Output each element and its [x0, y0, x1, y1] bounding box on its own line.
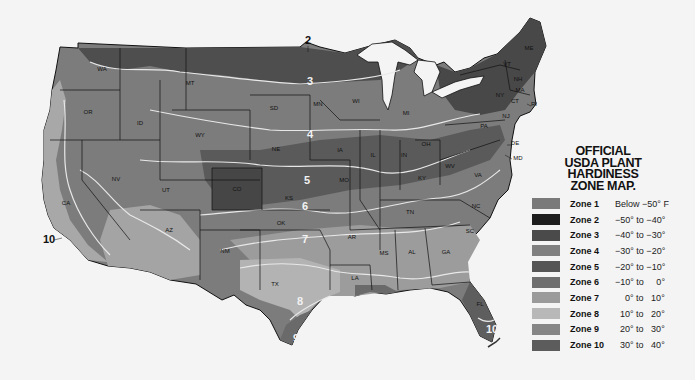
zone-number-label: 2	[305, 34, 311, 46]
zone-number-label: 8	[297, 295, 303, 307]
state-label-ny: NY	[496, 92, 504, 98]
state-label-nh: NH	[514, 76, 523, 82]
state-label-vt: VT	[503, 61, 511, 67]
state-label-ri: RI	[531, 101, 537, 107]
state-label-va: VA	[474, 172, 482, 178]
state-label-ga: GA	[442, 249, 451, 255]
state-label-ar: AR	[348, 234, 357, 240]
zone-swatch	[532, 230, 560, 241]
zone-name: Zone 7	[570, 293, 615, 303]
zone-name: Zone 6	[570, 277, 615, 287]
zone-range: 10° to 20°	[615, 309, 665, 319]
zone-name: Zone 8	[570, 309, 615, 319]
legend-row-zone-2: Zone 2−50° to −40°	[532, 212, 692, 228]
zone-number-label: 4	[307, 128, 314, 140]
zone-range: 30° to 40°	[615, 340, 665, 350]
zone-number-label: 3	[307, 75, 313, 87]
zone-range: 0° to 10°	[615, 293, 665, 303]
state-label-fl: FL	[476, 301, 484, 307]
state-label-tx: TX	[271, 281, 279, 287]
state-label-sc: SC	[466, 228, 475, 234]
zone-swatch	[532, 308, 560, 319]
zone-swatch	[532, 245, 560, 256]
state-label-tn: TN	[406, 209, 414, 215]
state-label-id: ID	[137, 120, 144, 126]
zone-legend: Zone 1Below −50° F Zone 2−50° to −40° Zo…	[532, 196, 692, 353]
state-label-ok: OK	[277, 220, 286, 226]
state-label-il: IL	[370, 152, 376, 158]
zone-number-label: 9	[293, 332, 299, 344]
zone-range: Below −50° F	[615, 199, 669, 209]
state-label-az: AZ	[165, 227, 173, 233]
zone-swatch	[532, 198, 560, 209]
zone-name: Zone 4	[570, 246, 615, 256]
state-label-in: IN	[401, 152, 407, 158]
state-label-al: AL	[408, 249, 416, 255]
state-label-mn: MN	[313, 101, 322, 107]
legend-row-zone-4: Zone 4−30° to −20°	[532, 243, 692, 259]
zone-name: Zone 1	[570, 199, 615, 209]
state-label-nj: NJ	[502, 113, 509, 119]
state-label-ms: MS	[380, 250, 389, 256]
zone-name: Zone 3	[570, 230, 615, 240]
state-label-me: ME	[525, 45, 534, 51]
zone-range: −30° to −20°	[615, 246, 665, 256]
state-label-wa: WA	[97, 66, 106, 72]
state-label-wv: WV	[445, 163, 455, 169]
state-label-la: LA	[351, 275, 358, 281]
state-label-ut: UT	[162, 187, 170, 193]
state-label-mo: MO	[339, 177, 349, 183]
state-label-ma: MA	[516, 87, 525, 93]
zone-swatch	[532, 277, 560, 288]
zone-range: −50° to −40°	[615, 215, 665, 225]
zone-name: Zone 9	[570, 324, 615, 334]
state-label-nv: NV	[112, 176, 120, 182]
zone-swatch	[532, 292, 560, 303]
title-line-4: ZONE MAP.	[548, 181, 658, 193]
zone-swatch	[532, 340, 560, 351]
zone-range: −20° to −10°	[615, 262, 665, 272]
state-label-or: OR	[84, 109, 94, 115]
legend-row-zone-3: Zone 3−40° to −30°	[532, 227, 692, 243]
legend-row-zone-1: Zone 1Below −50° F	[532, 196, 692, 212]
map-title: OFFICIAL USDA PLANT HARDINESS ZONE MAP.	[548, 146, 658, 192]
legend-row-zone-10: Zone 10 30° to 40°	[532, 337, 692, 353]
zone-number-label: 5	[304, 174, 310, 186]
state-label-ne: NE	[272, 146, 280, 152]
legend-row-zone-6: Zone 6−10° to 0°	[532, 274, 692, 290]
zone-name: Zone 2	[570, 215, 615, 225]
zone-number-label: 10	[486, 323, 498, 335]
state-label-sd: SD	[270, 105, 279, 111]
state-label-mi: MI	[403, 110, 410, 116]
state-label-mt: MT	[186, 80, 195, 86]
state-label-ky: KY	[418, 175, 426, 181]
state-label-co: CO	[233, 186, 242, 192]
legend-row-zone-8: Zone 8 10° to 20°	[532, 306, 692, 322]
state-label-ct: CT	[511, 98, 519, 104]
zone-name: Zone 10	[570, 340, 615, 350]
legend-row-zone-5: Zone 5−20° to −10°	[532, 259, 692, 275]
state-label-nm: NM	[220, 248, 229, 254]
zone-swatch	[532, 324, 560, 335]
zone-name: Zone 5	[570, 262, 615, 272]
state-label-ca: CA	[62, 200, 70, 206]
state-label-pa: PA	[480, 123, 488, 129]
legend-row-zone-9: Zone 9 20° to 30°	[532, 322, 692, 338]
zone-number-label: 7	[302, 233, 308, 245]
state-label-wy: WY	[195, 132, 205, 138]
legend-row-zone-7: Zone 7 0° to 10°	[532, 290, 692, 306]
state-label-nc: NC	[472, 203, 481, 209]
zone-number-label: 10	[43, 233, 55, 245]
state-label-de: DE	[511, 140, 519, 146]
zone-swatch	[532, 214, 560, 225]
zone-range: −10° to 0°	[615, 277, 665, 287]
zone-range: −40° to −30°	[615, 230, 665, 240]
zone-range: 20° to 30°	[615, 324, 665, 334]
state-label-ia: IA	[337, 147, 343, 153]
zone-number-label: 6	[302, 200, 308, 212]
state-label-md: MD	[513, 155, 523, 161]
state-label-oh: OH	[422, 141, 431, 147]
state-label-ks: KS	[285, 195, 293, 201]
zone-swatch	[532, 261, 560, 272]
state-label-wi: WI	[352, 98, 360, 104]
